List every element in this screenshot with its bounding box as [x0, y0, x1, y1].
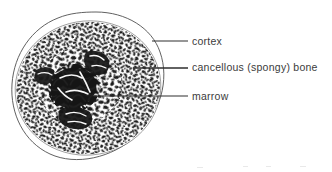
label-cortex: cortex — [192, 36, 222, 47]
bone-cross-section-diagram — [0, 0, 332, 172]
scan-artifact — [243, 166, 248, 167]
label-marrow: marrow — [192, 91, 229, 102]
scan-artifact — [197, 167, 203, 168]
scan-artifact — [266, 166, 271, 167]
label-cancellous-bone: cancellous (spongy) bone — [192, 62, 318, 73]
scan-artifact — [300, 166, 306, 167]
